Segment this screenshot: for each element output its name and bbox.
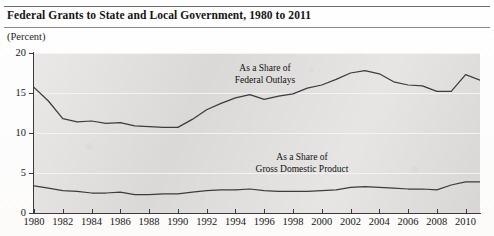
y-tick-label-5: 5 [4,168,26,179]
annotation-outlays-line1: As a Share of [205,63,325,75]
annotation-gdp-line2: Gross Domestic Product [237,164,367,176]
annotation-outlays-line2: Federal Outlays [205,75,325,87]
x-axis-line [33,213,481,214]
annotation-gross-domestic-product: As a Share of Gross Domestic Product [237,152,367,175]
chart-plot-wrapper: 05101520 1980198219841986198819901992199… [0,0,494,236]
y-tick-label-20: 20 [4,48,26,59]
y-tick-label-15: 15 [4,88,26,99]
series-line-gdp [34,182,480,195]
y-tick-label-10: 10 [4,128,26,139]
annotation-federal-outlays: As a Share of Federal Outlays [205,63,325,86]
x-tick-label-2010: 2010 [449,217,483,228]
annotation-gdp-line1: As a Share of [237,152,367,164]
